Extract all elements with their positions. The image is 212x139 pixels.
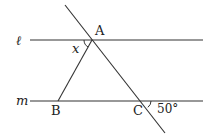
transversal-line	[65, 5, 165, 133]
geometry-diagram: ℓ m A x B C 50°	[0, 0, 212, 139]
label-line-m: m	[16, 93, 28, 108]
label-line-l: ℓ	[16, 33, 22, 48]
angle-x-arc	[84, 40, 88, 47]
label-point-b: B	[51, 103, 61, 118]
label-point-a: A	[94, 23, 105, 38]
label-angle-50: 50°	[157, 102, 178, 116]
angle-50-arc	[148, 101, 151, 107]
label-angle-x: x	[72, 41, 80, 56]
label-point-c: C	[133, 103, 143, 118]
